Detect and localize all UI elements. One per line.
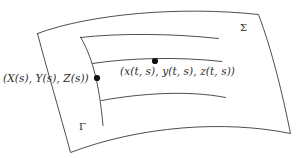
initial-curve-label-gamma: Γ <box>79 122 86 132</box>
surface-point-dot <box>152 58 158 64</box>
characteristic-curve-bottom <box>102 93 226 100</box>
figure-canvas: (X(s), Y(s), Z(s)) (x(t, s), y(t, s), z(… <box>0 0 296 158</box>
surface-point-label: (x(t, s), y(t, s), z(t, s)) <box>120 66 235 77</box>
curve-point-label: (X(s), Y(s), Z(s)) <box>3 73 89 84</box>
surface-label-sigma: Σ <box>240 23 247 33</box>
characteristic-curve-top <box>81 34 219 38</box>
curve-point-dot <box>94 75 100 81</box>
